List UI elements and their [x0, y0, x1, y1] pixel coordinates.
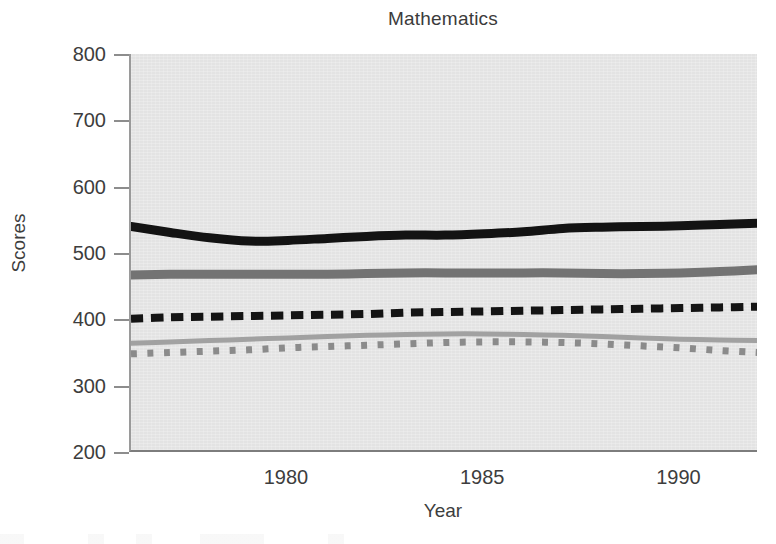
series-line-series-2-solid-gray	[131, 270, 757, 275]
series-layer	[131, 54, 757, 452]
x-tick-label: 1990	[639, 466, 719, 489]
y-tick-label: 400	[46, 309, 106, 329]
y-tick-mark	[114, 452, 129, 454]
y-tick-mark	[114, 253, 129, 255]
y-tick-label: 200	[46, 442, 106, 462]
series-line-series-3-dashed-black	[131, 307, 757, 319]
page-edge-artifact	[0, 534, 400, 544]
y-axis-title: Scores	[8, 198, 30, 288]
y-tick-mark	[114, 120, 129, 122]
x-axis-title: Year	[129, 500, 757, 522]
y-tick-label: 700	[46, 110, 106, 130]
y-tick-mark	[114, 54, 129, 56]
y-tick-label: 600	[46, 177, 106, 197]
x-tick-label: 1980	[246, 466, 326, 489]
chart-figure: Mathematics Scores 200300400500600700800…	[0, 0, 776, 544]
y-tick-mark	[114, 386, 129, 388]
y-tick-mark	[114, 319, 129, 321]
series-line-series-5-dotted-gray	[131, 342, 757, 354]
y-tick-label: 500	[46, 243, 106, 263]
chart-title: Mathematics	[129, 8, 757, 30]
y-tick-label: 800	[46, 44, 106, 64]
plot-area	[129, 54, 757, 452]
y-tick-label: 300	[46, 376, 106, 396]
series-line-series-1-solid-black	[131, 223, 757, 241]
x-tick-label: 1985	[442, 466, 522, 489]
y-tick-mark	[114, 187, 129, 189]
